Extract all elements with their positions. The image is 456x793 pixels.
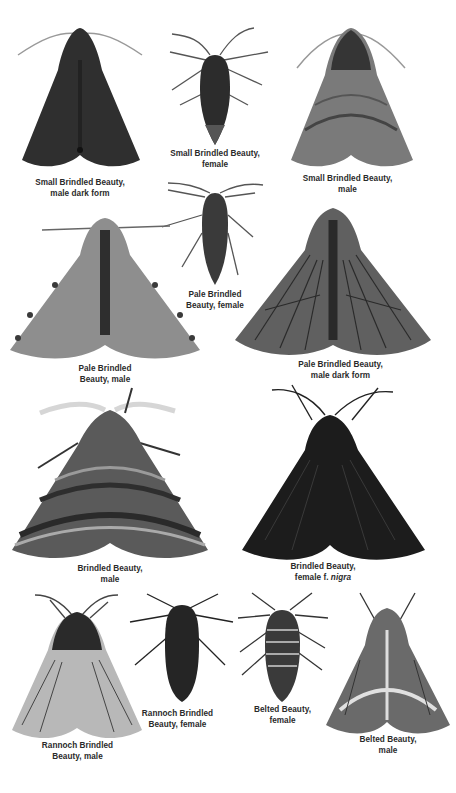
moth-image	[0, 210, 210, 365]
caption: Brindled Beauty, male	[0, 563, 220, 585]
moth-image	[285, 0, 456, 175]
moth-image	[150, 0, 280, 150]
moth-image	[125, 590, 240, 705]
moth-image	[0, 0, 160, 175]
moth-image	[230, 380, 456, 565]
specimen-pale-brindled-beauty-male-dark: Pale Brindled Beauty, male dark form	[225, 200, 456, 385]
caption: Pale Brindled Beauty, male dark form	[225, 359, 456, 381]
caption: Small Brindled Beauty, male dark form	[0, 177, 160, 199]
caption: Small Brindled Beauty, female	[150, 148, 280, 170]
caption: Rannoch Brindled Beauty, female	[125, 708, 230, 730]
caption: Belted Beauty, male	[320, 734, 456, 756]
moth-image	[225, 200, 456, 360]
caption: Rannoch Brindled Beauty, male	[0, 740, 155, 762]
specimen-pale-brindled-beauty-male: Pale Brindled Beauty, male	[0, 210, 210, 390]
moth-image	[320, 590, 456, 735]
caption: Small Brindled Beauty, male	[262, 173, 433, 195]
specimen-brindled-beauty-male: Brindled Beauty, male	[0, 385, 220, 585]
caption: Brindled Beauty, female f. nigra	[230, 561, 416, 583]
specimen-small-brindled-beauty-male-dark: Small Brindled Beauty, male dark form	[0, 0, 160, 200]
specimen-small-brindled-beauty-female: Small Brindled Beauty, female	[150, 0, 280, 170]
specimen-brindled-beauty-female-nigra: Brindled Beauty, female f. nigra	[230, 380, 456, 585]
caption: Pale Brindled Beauty, male	[0, 363, 210, 385]
specimen-rannoch-brindled-beauty-female: Rannoch Brindled Beauty, female	[125, 590, 240, 740]
specimen-belted-beauty-male: Belted Beauty, male	[320, 590, 456, 760]
specimen-small-brindled-beauty-male: Small Brindled Beauty, male	[285, 0, 456, 200]
moth-image	[0, 385, 220, 565]
